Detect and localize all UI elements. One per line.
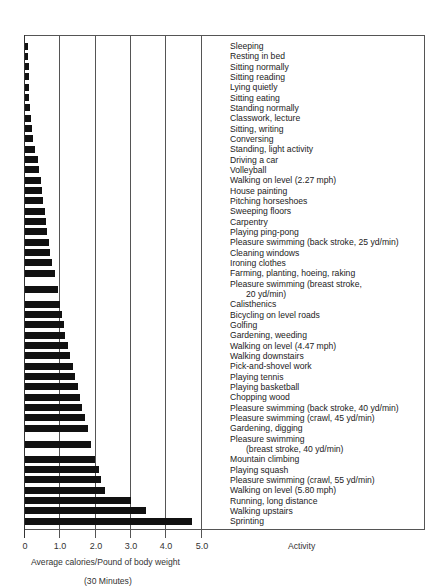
- bar: [25, 135, 33, 142]
- activity-label: Mountain climbing: [230, 454, 299, 464]
- activity-label: Walking on level (5.80 mph): [230, 485, 336, 495]
- x-tick-3: 3.0: [125, 541, 138, 551]
- activity-label: Running, long distance: [230, 496, 317, 506]
- activity-label: Playing basketball: [230, 382, 299, 392]
- bar: [25, 425, 88, 432]
- bar: [25, 208, 45, 215]
- activity-label: Bicycling on level roads: [230, 310, 320, 320]
- activity-label: Standing, light activity: [230, 144, 313, 154]
- activity-label: House painting: [230, 186, 287, 196]
- activity-label: Carpentry: [230, 217, 268, 227]
- bar: [25, 146, 35, 153]
- activity-label: Pleasure swimming (crawl, 45 yd/min): [230, 413, 375, 423]
- bar: [25, 218, 46, 225]
- bar: [25, 187, 42, 194]
- activity-label: Gardening, weeding: [230, 330, 307, 340]
- activity-label: Resting in bed: [230, 51, 285, 61]
- activity-label: Volleyball: [230, 165, 266, 175]
- bar: [25, 94, 29, 101]
- bar: [25, 115, 31, 122]
- bar: [25, 43, 28, 50]
- activity-label: Standing normally: [230, 103, 299, 113]
- x-tick-4: 4.0: [160, 541, 173, 551]
- activity-label: Playing tennis: [230, 372, 284, 382]
- activity-label: Pick-and-shovel work: [230, 361, 312, 371]
- bar: [25, 476, 101, 483]
- activity-label: Pleasure swimming (crawl, 55 yd/min): [230, 475, 375, 485]
- activity-label: Gardening, digging: [230, 423, 303, 433]
- bar: [25, 352, 70, 359]
- bar: [25, 321, 64, 328]
- x-axis-sublabel: (30 Minutes): [84, 576, 132, 586]
- bar: [25, 63, 29, 70]
- x-tick-5: 5.0: [196, 541, 209, 551]
- activity-label: Pleasure swimming (back stroke, 40 yd/mi…: [230, 403, 399, 413]
- bar: [25, 125, 32, 132]
- activity-label: Calisthenics: [230, 299, 276, 309]
- bar: [25, 487, 105, 494]
- activity-label-cont: (breast stroke, 40 yd/min): [246, 444, 343, 454]
- activity-label: Pleasure swimming (breast stroke,: [230, 279, 362, 289]
- activity-label: Sitting reading: [230, 72, 285, 82]
- x-tick-2: 2.0: [90, 541, 103, 551]
- bar: [25, 249, 50, 256]
- activity-axis-label: Activity: [288, 541, 315, 551]
- bar: [25, 311, 62, 318]
- bar: [25, 394, 80, 401]
- bar: [25, 497, 131, 504]
- bar: [25, 286, 58, 293]
- activity-label: Pleasure swimming: [230, 434, 305, 444]
- activity-label: Sprinting: [230, 516, 264, 526]
- bar: [25, 507, 146, 514]
- activity-label: Ironing clothes: [230, 258, 286, 268]
- x-axis-label: Average calories/Pound of body weight: [31, 557, 180, 567]
- bar: [25, 84, 29, 91]
- activity-label: Sitting normally: [230, 62, 289, 72]
- bar: [25, 373, 75, 380]
- activity-label: Pleasure swimming (back stroke, 25 yd/mi…: [230, 237, 399, 247]
- bar: [25, 270, 55, 277]
- bar: [25, 166, 39, 173]
- bar: [25, 259, 52, 266]
- gridline-4: [165, 35, 166, 538]
- bar: [25, 342, 68, 349]
- bar: [25, 156, 38, 163]
- bar: [25, 228, 47, 235]
- bar: [25, 404, 82, 411]
- activity-label: Farming, planting, hoeing, raking: [230, 268, 355, 278]
- bar: [25, 383, 78, 390]
- bar: [25, 332, 65, 339]
- activity-label: Driving a car: [230, 155, 278, 165]
- activity-label: Walking on level (4.47 mph): [230, 341, 336, 351]
- bar: [25, 197, 43, 204]
- activity-label: Playing squash: [230, 465, 288, 475]
- bar: [25, 73, 29, 80]
- bar: [25, 363, 73, 370]
- activity-label: Walking upstairs: [230, 506, 293, 516]
- gridline-3: [130, 35, 131, 538]
- activity-label: Sleeping: [230, 41, 263, 51]
- activity-label: Sitting eating: [230, 93, 280, 103]
- bar: [25, 414, 85, 421]
- activity-label: Classwork, lecture: [230, 113, 300, 123]
- gridline-5: [201, 35, 202, 538]
- bar: [25, 441, 91, 448]
- activity-label: Walking on level (2.27 mph): [230, 175, 336, 185]
- bar: [25, 301, 60, 308]
- bar: [25, 466, 99, 473]
- bar: [25, 104, 30, 111]
- activity-label: Golfing: [230, 320, 257, 330]
- activity-label: Pitching horseshoes: [230, 196, 307, 206]
- activity-label: Sweeping floors: [230, 206, 291, 216]
- bar: [25, 456, 95, 463]
- activity-label-cont: 20 yd/min): [246, 289, 286, 299]
- activity-label: Walking downstairs: [230, 351, 304, 361]
- activity-label: Lying quietly: [230, 82, 277, 92]
- activity-label: Sitting, writing: [230, 124, 284, 134]
- activity-label: Conversing: [230, 134, 273, 144]
- x-tick-0: 0: [22, 541, 27, 551]
- x-tick-1: 1.0: [54, 541, 67, 551]
- bar: [25, 518, 192, 525]
- bar: [25, 239, 49, 246]
- bar: [25, 53, 28, 60]
